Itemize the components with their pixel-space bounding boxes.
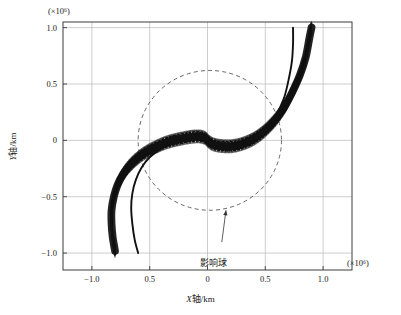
y-axis-label-unit: 轴/km bbox=[8, 132, 18, 155]
x-axis-exponent-label: (×10⁶) bbox=[347, 258, 369, 268]
tick-marks bbox=[63, 28, 323, 270]
figure-container: −1.00.500.51.01.00.50−0.5−1.0 (×10⁶) (×1… bbox=[0, 0, 401, 315]
x-tick-label: 1.0 bbox=[318, 274, 329, 284]
x-axis-label: X轴/km bbox=[0, 292, 401, 305]
trajectory-thin-curve bbox=[209, 28, 293, 146]
y-tick-label: 0 bbox=[53, 135, 57, 145]
tick-labels: −1.00.500.51.01.00.50−0.5−1.0 bbox=[42, 23, 329, 284]
y-tick-label: 1.0 bbox=[46, 23, 57, 33]
annotation-arrow-head bbox=[223, 210, 227, 215]
trajectory-band-stroke bbox=[111, 22, 311, 245]
x-tick-label: 0.5 bbox=[260, 274, 271, 284]
trajectory-band-stroke bbox=[111, 24, 311, 247]
x-tick-label: −1.0 bbox=[84, 274, 99, 284]
y-axis-label: Y轴/km bbox=[6, 107, 19, 187]
trajectory-band-stroke bbox=[111, 23, 311, 246]
x-tick-label: 0.5 bbox=[144, 274, 155, 284]
y-axis-exponent-label: (×10⁶) bbox=[48, 6, 70, 16]
y-axis-label-symbol: Y bbox=[8, 156, 18, 161]
trajectory-band-stroke bbox=[111, 21, 311, 244]
y-tick-label: 0.5 bbox=[46, 79, 57, 89]
x-axis-label-unit: 轴/km bbox=[192, 294, 215, 304]
y-tick-label: −0.5 bbox=[42, 192, 57, 202]
annotation-arrow bbox=[222, 210, 228, 242]
y-tick-label: −1.0 bbox=[42, 248, 57, 258]
x-tick-label: 0 bbox=[205, 274, 209, 284]
sphere-of-influence-label: 影响球 bbox=[200, 256, 227, 269]
